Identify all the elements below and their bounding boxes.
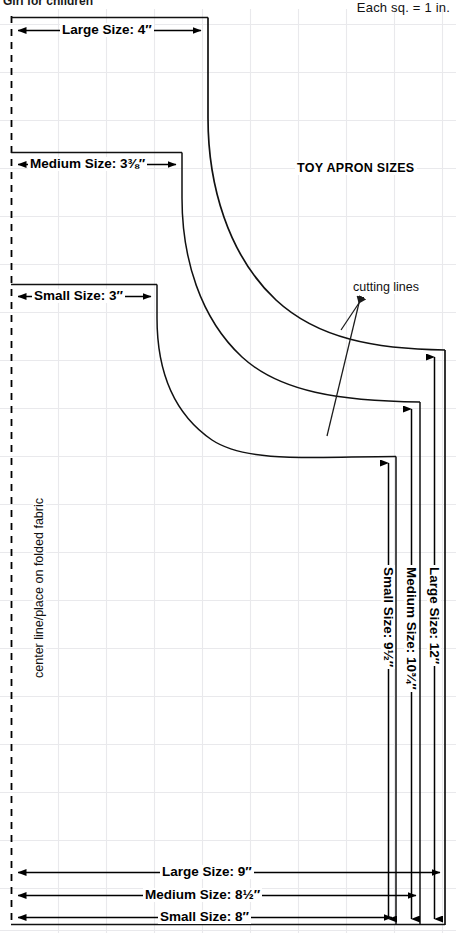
top-width-label-medium: Medium Size: 3⅜″ xyxy=(28,157,147,171)
cutting-lines-leaders xyxy=(327,303,359,436)
side-height-label-small: Small Size: 9½″ xyxy=(382,565,396,669)
cutting-lines-label: cutting lines xyxy=(351,280,421,294)
apron-pattern-diagram: Girl for children Each sq. = 1 in. TOY A… xyxy=(0,0,456,933)
page-header-text: Girl for children xyxy=(3,0,93,8)
top-width-label-large: Large Size: 4″ xyxy=(60,23,154,37)
small-size-outline xyxy=(11,285,396,926)
side-height-label-large: Large Size: 12″ xyxy=(428,565,442,666)
bottom-width-label-medium: Medium Size: 8½″ xyxy=(143,888,262,902)
bottom-width-label-small: Small Size: 8″ xyxy=(158,910,251,924)
top-width-label-small: Small Size: 3″ xyxy=(32,289,125,303)
diagram-title: TOY APRON SIZES xyxy=(295,161,417,175)
pattern-canvas xyxy=(0,0,456,933)
center-fold-label: center line/place on folded fabric xyxy=(33,496,46,680)
scale-note: Each sq. = 1 in. xyxy=(357,0,450,15)
medium-size-outline xyxy=(11,153,420,926)
inch-grid xyxy=(0,9,456,933)
bottom-width-label-large: Large Size: 9″ xyxy=(160,865,254,879)
page-header-strip: Girl for children xyxy=(0,0,300,9)
side-height-label-medium: Medium Size: 10¾″ xyxy=(405,565,419,692)
large-size-outline xyxy=(11,18,445,926)
